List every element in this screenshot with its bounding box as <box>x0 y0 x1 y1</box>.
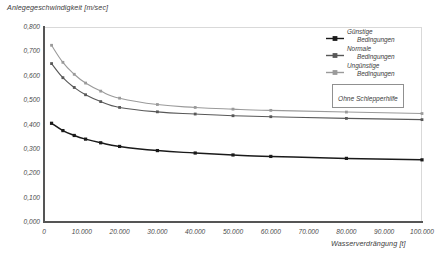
data-point-marker <box>345 111 348 114</box>
data-point-marker <box>118 145 121 148</box>
data-point-marker <box>269 109 272 112</box>
data-point-marker <box>421 118 424 121</box>
data-point-marker <box>420 158 423 161</box>
data-point-marker <box>156 110 159 113</box>
data-point-marker <box>232 114 235 117</box>
data-point-marker <box>118 106 121 109</box>
data-point-marker <box>99 100 102 103</box>
data-point-marker <box>156 103 159 106</box>
data-point-marker <box>99 90 102 93</box>
legend-marker-icon <box>325 63 345 72</box>
annotation-text: Ohne Schlepperhilfe <box>338 95 398 102</box>
data-point-marker <box>194 106 197 109</box>
data-point-marker <box>232 108 235 111</box>
legend-label: UngünstigeBedingungen <box>347 62 395 78</box>
series-line <box>52 123 422 160</box>
data-point-marker <box>84 138 87 141</box>
data-point-marker <box>73 86 76 89</box>
data-point-marker <box>194 113 197 116</box>
data-point-marker <box>50 62 53 65</box>
data-point-marker <box>61 129 64 132</box>
data-point-marker <box>345 117 348 120</box>
legend-item: UngünstigeBedingungen <box>325 62 423 78</box>
data-point-marker <box>156 149 159 152</box>
data-point-marker <box>50 122 53 125</box>
data-point-marker <box>345 157 348 160</box>
data-point-marker <box>99 141 102 144</box>
data-point-marker <box>62 61 65 64</box>
legend-item: GünstigeBedingungen <box>325 28 423 44</box>
data-point-marker <box>231 153 234 156</box>
x-axis-title: Wasserverdrängung [t] <box>331 239 406 248</box>
data-point-marker <box>50 44 53 47</box>
data-point-marker <box>269 115 272 118</box>
data-point-marker <box>118 97 121 100</box>
data-point-marker <box>84 93 87 96</box>
data-point-marker <box>62 76 65 79</box>
data-point-marker <box>269 155 272 158</box>
legend-item: NormaleBedingungen <box>325 45 423 61</box>
data-point-marker <box>194 151 197 154</box>
annotation-box: Ohne Schlepperhilfe <box>332 84 404 108</box>
legend-marker-icon <box>325 29 345 38</box>
data-point-marker <box>84 82 87 85</box>
data-point-marker <box>73 73 76 76</box>
legend-label: GünstigeBedingungen <box>347 28 395 44</box>
legend: GünstigeBedingungenNormaleBedingungenUng… <box>325 28 423 79</box>
chart-container: Anlegegeschwindigkeit [m/sec] 0,0000,100… <box>0 0 435 258</box>
legend-label: NormaleBedingungen <box>347 45 395 61</box>
data-point-marker <box>73 134 76 137</box>
data-point-marker <box>421 112 424 115</box>
legend-marker-icon <box>325 46 345 55</box>
